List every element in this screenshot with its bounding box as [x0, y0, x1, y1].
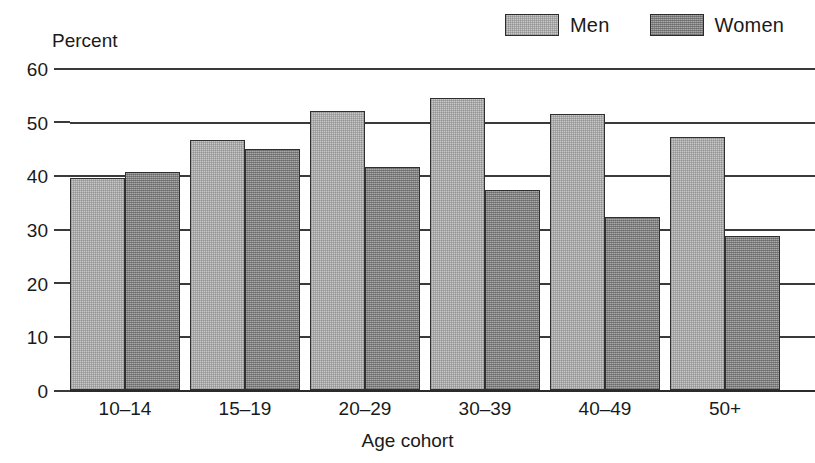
legend-entry-women: Women — [650, 14, 785, 37]
bar-women-10-14 — [125, 172, 180, 390]
y-tick-stub-50 — [54, 121, 70, 123]
legend-swatch-men-icon — [505, 14, 559, 36]
bars-group — [70, 68, 815, 390]
bar-women-40-49 — [605, 217, 660, 390]
x-axis-title: Age cohort — [0, 430, 815, 452]
bar-men-15-19 — [190, 140, 245, 390]
x-tick-label-5: 50+ — [709, 398, 741, 420]
y-tick-label-40: 40 — [27, 166, 48, 188]
legend-entry-men: Men — [505, 14, 610, 37]
y-tick-label-30: 30 — [27, 220, 48, 242]
chart-legend: Men Women — [505, 8, 784, 42]
x-tick-label-1: 15–19 — [219, 398, 272, 420]
plot-area: 0102030405060 — [70, 68, 815, 390]
bar-men-10-14 — [70, 178, 125, 390]
bar-women-30-39 — [485, 190, 540, 390]
y-tick-label-60: 60 — [27, 59, 48, 81]
y-tick-label-0: 0 — [37, 381, 48, 403]
legend-label-women: Women — [715, 14, 785, 37]
y-tick-stub-0 — [54, 390, 70, 392]
bar-women-15-19 — [245, 149, 300, 390]
y-tick-label-20: 20 — [27, 274, 48, 296]
bar-women-20-29 — [365, 167, 420, 390]
y-tick-stub-30 — [54, 229, 70, 231]
legend-swatch-women-icon — [650, 14, 704, 36]
bar-men-30-39 — [430, 98, 485, 390]
gridline-0: 0 — [70, 390, 815, 392]
y-tick-label-50: 50 — [27, 113, 48, 135]
y-axis-title: Percent — [52, 30, 117, 52]
bar-chart: Men Women Percent 0102030405060 10–1415–… — [0, 0, 815, 463]
y-tick-stub-10 — [54, 336, 70, 338]
y-tick-stub-20 — [54, 282, 70, 284]
y-tick-label-10: 10 — [27, 327, 48, 349]
x-tick-label-2: 20–29 — [339, 398, 392, 420]
x-tick-label-0: 10–14 — [99, 398, 152, 420]
y-tick-stub-40 — [54, 175, 70, 177]
bar-men-50+ — [670, 137, 725, 390]
bar-men-40-49 — [550, 114, 605, 390]
bar-women-50+ — [725, 236, 780, 390]
x-tick-label-4: 40–49 — [579, 398, 632, 420]
y-tick-stub-60 — [54, 68, 70, 70]
bar-men-20-29 — [310, 111, 365, 390]
legend-label-men: Men — [570, 14, 610, 37]
x-tick-label-3: 30–39 — [459, 398, 512, 420]
